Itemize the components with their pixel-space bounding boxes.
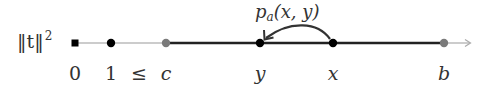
b-dot-marker: [440, 39, 448, 47]
tick-label-leq: ≤: [131, 64, 147, 83]
tick-label-y: y: [255, 64, 266, 83]
jump-label-args: (x, y): [274, 1, 320, 22]
tick-label-b: b: [438, 64, 450, 83]
jump-label-subscript: a: [267, 10, 274, 24]
zero-square-marker: [72, 40, 79, 47]
jump-arrow-curve: [266, 25, 330, 39]
jump-probability-label: pa(x, y): [255, 3, 320, 23]
one-dot-marker: [107, 39, 115, 47]
norm-exponent-text: 2: [45, 29, 53, 43]
c-dot-marker: [162, 39, 170, 47]
number-line-diagram: ‖t‖2 0 1 ≤ c y x b pa(x, y): [0, 0, 493, 88]
jump-label-func: p: [255, 1, 267, 22]
tick-label-0: 0: [69, 64, 81, 83]
y-dot-marker: [256, 39, 264, 47]
tick-label-c: c: [161, 64, 172, 83]
tick-label-1: 1: [105, 64, 117, 83]
norm-base-text: ‖t‖: [17, 30, 44, 52]
axis-label-norm-t-squared: ‖t‖2: [17, 30, 52, 51]
tick-label-x: x: [328, 64, 339, 83]
x-dot-marker: [329, 39, 337, 47]
